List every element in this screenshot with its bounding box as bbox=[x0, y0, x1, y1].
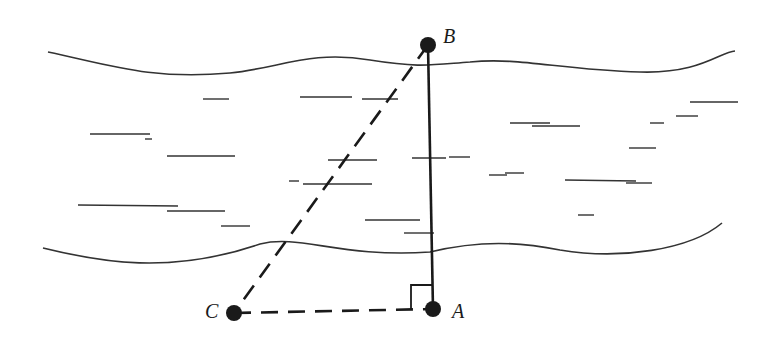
label-A: A bbox=[450, 300, 465, 322]
segment-BC bbox=[234, 45, 428, 313]
water-stroke bbox=[78, 205, 178, 206]
segment-AB bbox=[428, 45, 433, 309]
triangle-vertices bbox=[226, 37, 441, 321]
triangle-segments bbox=[234, 45, 433, 313]
near-bank bbox=[43, 223, 722, 263]
water-stroke bbox=[565, 180, 636, 181]
label-B: B bbox=[443, 25, 455, 47]
point-C bbox=[226, 305, 242, 321]
river-triangle-diagram: BAC bbox=[0, 0, 779, 347]
water-strokes bbox=[78, 97, 738, 233]
point-A bbox=[425, 301, 441, 317]
riverbanks bbox=[43, 51, 735, 263]
point-B bbox=[420, 37, 436, 53]
label-C: C bbox=[205, 300, 219, 322]
far-bank bbox=[48, 51, 735, 75]
segment-CA bbox=[234, 309, 433, 313]
vertex-labels: BAC bbox=[205, 25, 465, 322]
